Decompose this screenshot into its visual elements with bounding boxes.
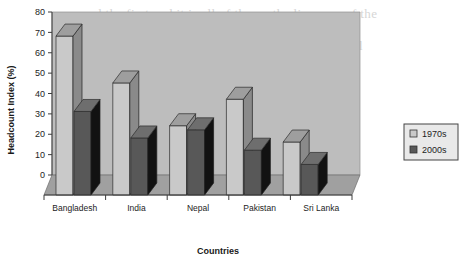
bar-bangladesh-2000s [74,99,100,195]
bar-chart: Headcount Index (%) Countries 0102030405… [0,0,471,262]
x-axis-category-label: Nepal [187,203,209,213]
bar-sri-lanka-2000s [301,152,327,195]
y-axis-title: Headcount Index (%) [6,65,16,154]
bar-front-face [170,126,187,195]
bar-front-face [283,142,300,195]
legend-label: 1970s [422,129,447,139]
bar-front-face [74,111,91,195]
y-axis-tick-label: 40 [35,89,45,99]
chart-figure: and the first and it is all of the on th… [0,0,471,262]
bar-front-face [226,99,243,195]
y-axis-tick-label: 10 [35,150,45,160]
bar-front-face [56,36,73,195]
bar-front-face [244,150,261,195]
chart-scene [44,12,360,200]
legend-label: 2000s [422,145,447,155]
y-axis-tick-labels: 01020304050607080 [35,7,45,180]
bar-front-face [113,83,130,195]
bar-nepal-2000s [188,118,214,195]
y-axis-tick-label: 30 [35,109,45,119]
chart-legend: 1970s2000s [404,124,458,160]
y-axis-tick-label: 0 [40,170,45,180]
x-axis-category-label: Sri Lanka [303,203,339,213]
bar-india-2000s [131,126,157,195]
bar-front-face [131,138,148,195]
bar-side-face [91,99,100,195]
y-axis-tick-label: 50 [35,68,45,78]
y-axis-tick-label: 80 [35,7,45,17]
x-axis-title: Countries [197,246,239,256]
x-axis-category-label: India [127,203,146,213]
y-axis-tick-label: 20 [35,129,45,139]
bar-front-face [188,130,205,195]
y-axis-tick-label: 60 [35,48,45,58]
x-axis-category-label: Pakistan [243,203,276,213]
legend-swatch-2000s [410,146,417,153]
legend-swatch-1970s [410,130,417,137]
y-axis-tick-label: 70 [35,28,45,38]
bar-pakistan-2000s [244,138,270,195]
bar-side-face [205,118,214,195]
bar-front-face [301,164,318,195]
x-axis-category-label: Bangladesh [52,203,97,213]
x-axis-category-labels: BangladeshIndiaNepalPakistanSri Lanka [52,203,339,213]
